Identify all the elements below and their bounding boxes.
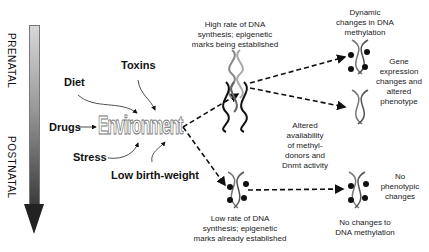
caption-line: Dnmt activity	[270, 161, 340, 171]
caption-line: marks being established	[180, 40, 290, 50]
prenatal-to-dynamic-arrow	[250, 57, 345, 83]
environment-label: Environment	[98, 111, 183, 140]
caption-line: synthesis; epigenetic	[180, 224, 300, 234]
caption-line: of methyl-	[270, 141, 340, 151]
no-methylation-change-caption: No changes to DNA methylation	[320, 218, 410, 238]
established-dna-helix-icon	[227, 172, 249, 208]
methylated-dna-helix-icon	[348, 40, 370, 74]
caption-line: donors and	[270, 151, 340, 161]
toxins-arrow	[138, 80, 155, 110]
caption-line: synthesis; epigenetic	[180, 30, 290, 40]
no-phenotype-caption: No phenotypic changes	[372, 172, 428, 202]
caption-line: Low rate of DNA	[180, 214, 300, 224]
caption-line: availability	[270, 131, 340, 141]
postnatal-caption: Low rate of DNA synthesis; epigenetic ma…	[180, 214, 300, 244]
caption-line: changes in DNA	[320, 18, 410, 28]
caption-line: phenotypic	[372, 182, 428, 192]
caption-line: marks already established	[180, 234, 300, 244]
prenatal-caption: High rate of DNA synthesis; epigenetic m…	[180, 20, 290, 50]
caption-line: Dynamic	[320, 8, 410, 18]
caption-line: High rate of DNA	[180, 20, 290, 30]
dynamic-methylation-caption: Dynamic changes in DNA methylation	[320, 8, 410, 38]
methyl-donor-caption: Altered availability of methyl- donors a…	[270, 121, 340, 171]
factor-drugs: Drugs	[49, 121, 81, 133]
factor-diet: Diet	[64, 76, 85, 88]
caption-line: phenotype	[368, 97, 429, 107]
caption-line: expression	[368, 67, 429, 77]
factor-stress: Stress	[73, 151, 107, 163]
env-to-prenatal-arrow	[183, 94, 238, 127]
caption-line: altered	[368, 87, 429, 97]
caption-line: No	[372, 172, 428, 182]
caption-line: Gene	[368, 57, 429, 67]
lbw-arrow	[152, 142, 165, 162]
caption-line: methylation	[320, 28, 410, 38]
caption-line: Altered	[270, 121, 340, 131]
caption-line: DNA methylation	[320, 228, 410, 238]
factor-toxins: Toxins	[121, 59, 156, 71]
caption-line: changes and	[368, 77, 429, 87]
caption-line: changes	[372, 192, 428, 202]
unchanged-dna-helix-icon	[348, 172, 369, 208]
postnatal-to-nochange-arrow	[248, 189, 343, 190]
prenatal-to-altered-arrow	[250, 88, 345, 107]
caption-line: No changes to	[320, 218, 410, 228]
factor-low-birth-weight: Low birth-weight	[111, 169, 199, 181]
dna-helix-icon	[352, 90, 368, 124]
stress-arrow	[108, 143, 138, 158]
phenotype-change-caption: Gene expression changes and altered phen…	[368, 57, 429, 107]
replicating-dna-helix-icon	[223, 50, 247, 132]
